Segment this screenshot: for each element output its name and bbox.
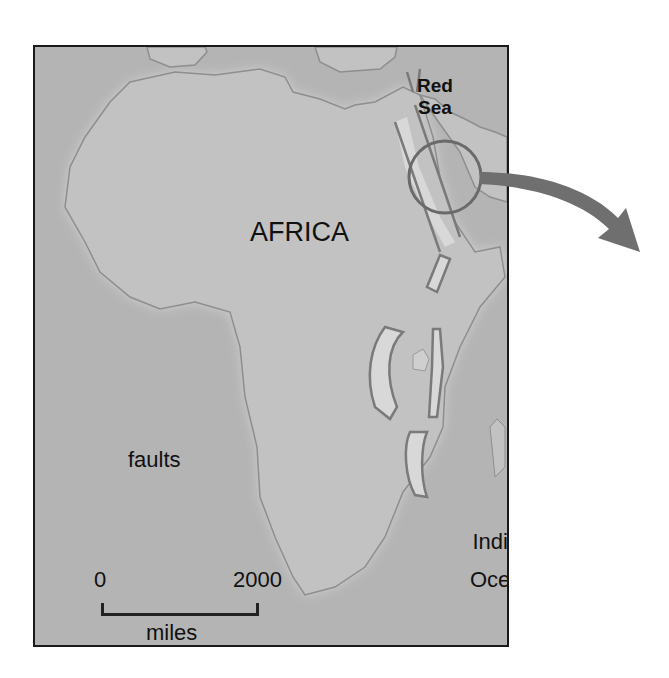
faults-label: faults — [128, 447, 181, 473]
scale-end-label: 2000 — [233, 567, 282, 593]
scale-unit-label: miles — [146, 620, 197, 646]
red-sea-label: Red Sea — [417, 75, 453, 119]
africa-label: AFRICA — [250, 217, 349, 248]
indian-ocean-label-line2: Ocean — [470, 561, 509, 599]
red-sea-label-line1: Red — [417, 75, 453, 97]
scale-start-label: 0 — [94, 567, 106, 593]
madagascar — [490, 419, 505, 477]
scale-bar-line — [101, 603, 259, 616]
europe-fragment — [147, 47, 207, 67]
scale-bar: 0 2000 miles — [93, 567, 273, 647]
indian-ocean-label-line1: Indian — [470, 523, 509, 561]
map-frame: AFRICA Red Sea faults Indian Ocean 0 200… — [33, 45, 509, 647]
indian-ocean-label: Indian Ocean — [470, 523, 509, 599]
europe-fragment-2 — [315, 47, 397, 72]
map-canvas — [35, 47, 507, 645]
red-sea-label-line2: Sea — [417, 97, 453, 119]
